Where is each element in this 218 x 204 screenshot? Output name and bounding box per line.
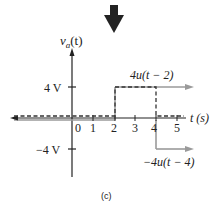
step-function-diagram: va(t) 4 V −4 V (0, 0, 218, 204)
y-tick-label-neg4v: −4 V (36, 143, 61, 157)
annotation-neg4u-t-minus-4: −4u(t − 4) (143, 155, 195, 169)
y-axis-label: va(t) (60, 33, 83, 50)
dashed-sum-signal (14, 87, 184, 116)
x-tick-label-4: 4 (151, 121, 157, 135)
down-arrow-icon (104, 5, 124, 33)
x-tick-label-2: 2 (111, 121, 117, 135)
x-axis-label: t (s) (190, 111, 209, 125)
x-tick-label-1: 1 (90, 121, 96, 135)
annotation-4u-t-minus-2: 4u(t − 2) (130, 68, 173, 82)
x-tick-label-5: 5 (174, 121, 180, 135)
y-axis (68, 48, 76, 177)
y-tick-label-4v: 4 V (44, 81, 62, 95)
x-tick-label-0: 0 (75, 121, 81, 135)
component-4u-t-minus-2 (14, 84, 194, 120)
figure-caption: (c) (101, 191, 112, 201)
x-tick-label-3: 3 (132, 121, 138, 135)
